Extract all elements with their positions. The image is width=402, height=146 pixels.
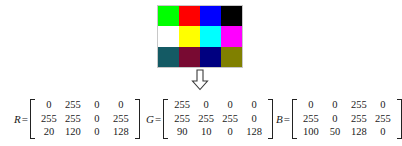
- matrix-group-r: R = 0255002552550255201200128: [14, 92, 140, 146]
- matrix-cell-b-0-2: 255: [347, 99, 371, 113]
- matrix-equals-b: =: [284, 114, 292, 125]
- matrix-cell-g-2-1: 10: [194, 126, 218, 140]
- matrix-cell-r-1-2: 0: [85, 112, 109, 126]
- matrix-table-r: 0255002552550255201200128: [37, 99, 133, 140]
- matrix-row: 255000: [170, 99, 266, 113]
- matrix-cell-g-1-1: 255: [194, 112, 218, 126]
- matrix-cell-b-1-2: 255: [347, 112, 371, 126]
- matrix-label-r: R: [14, 114, 22, 125]
- matrix-cell-r-0-2: 0: [85, 99, 109, 113]
- channel-matrices: R = 0255002552550255201200128 G = 255000…: [0, 92, 396, 146]
- matrix-cell-g-0-3: 0: [242, 99, 266, 113]
- bracket-left-g: [163, 99, 168, 140]
- pixel-r2c1: [179, 47, 200, 67]
- bracket-right-r: [135, 99, 140, 140]
- matrix-cell-b-0-1: 0: [323, 99, 347, 113]
- pixel-r1c1: [179, 26, 200, 46]
- matrix-row: 2550255255: [299, 112, 395, 126]
- matrix-row: 2552552550: [170, 112, 266, 126]
- down-arrow-icon: [190, 69, 210, 91]
- matrix-row: 002550: [299, 99, 395, 113]
- pixel-r1c0: [158, 26, 179, 46]
- bracket-left-b: [292, 99, 297, 140]
- matrix-cell-g-0-0: 255: [170, 99, 194, 113]
- matrix-cell-r-1-3: 255: [109, 112, 133, 126]
- matrix-row: 90100128: [170, 126, 266, 140]
- pixel-r0c0: [158, 6, 179, 26]
- matrix-cell-r-2-2: 0: [85, 126, 109, 140]
- matrix-cell-r-0-0: 0: [37, 99, 61, 113]
- matrix-cell-g-2-3: 128: [242, 126, 266, 140]
- matrix-cell-g-0-1: 0: [194, 99, 218, 113]
- matrix-cell-g-2-0: 90: [170, 126, 194, 140]
- matrix-cell-r-1-0: 255: [37, 112, 61, 126]
- matrix-body-r: 0255002552550255201200128: [30, 97, 140, 142]
- matrix-cell-g-2-2: 0: [218, 126, 242, 140]
- matrix-row: 100501280: [299, 126, 395, 140]
- matrix-cell-b-2-3: 0: [371, 126, 395, 140]
- matrix-row: 2552550255: [37, 112, 133, 126]
- matrix-cell-r-0-3: 0: [109, 99, 133, 113]
- matrix-cell-b-2-1: 50: [323, 126, 347, 140]
- matrix-cell-r-1-1: 255: [61, 112, 85, 126]
- pixel-r0c2: [200, 6, 221, 26]
- matrix-table-b: 0025502550255255100501280: [299, 99, 395, 140]
- matrix-cell-b-1-0: 255: [299, 112, 323, 126]
- matrix-cell-b-0-0: 0: [299, 99, 323, 113]
- matrix-cell-g-0-2: 0: [218, 99, 242, 113]
- matrix-cell-g-1-2: 255: [218, 112, 242, 126]
- matrix-equals-r: =: [22, 114, 30, 125]
- matrix-cell-b-1-3: 255: [371, 112, 395, 126]
- matrix-group-b: B = 0025502550255255100501280: [276, 92, 402, 146]
- rgb-color-image: [157, 5, 243, 68]
- pixel-r2c0: [158, 47, 179, 67]
- matrix-body-b: 0025502550255255100501280: [292, 97, 402, 142]
- pixel-r2c3: [221, 47, 242, 67]
- pixel-r0c1: [179, 6, 200, 26]
- matrix-label-g: G: [146, 114, 155, 125]
- matrix-cell-r-2-3: 128: [109, 126, 133, 140]
- pixel-r1c3: [221, 26, 242, 46]
- matrix-table-g: 255000255255255090100128: [170, 99, 266, 140]
- bracket-right-g: [268, 99, 273, 140]
- matrix-label-b: B: [276, 114, 284, 125]
- pixel-r1c2: [200, 26, 221, 46]
- pixel-grid: [158, 6, 242, 67]
- matrix-cell-b-0-3: 0: [371, 99, 395, 113]
- pixel-r2c2: [200, 47, 221, 67]
- matrix-row: 025500: [37, 99, 133, 113]
- matrix-cell-g-1-0: 255: [170, 112, 194, 126]
- pixel-r0c3: [221, 6, 242, 26]
- matrix-cell-b-2-2: 128: [347, 126, 371, 140]
- matrix-cell-r-2-1: 120: [61, 126, 85, 140]
- bracket-left-r: [30, 99, 35, 140]
- matrix-cell-r-2-0: 20: [37, 126, 61, 140]
- matrix-cell-b-2-0: 100: [299, 126, 323, 140]
- matrix-cell-b-1-1: 0: [323, 112, 347, 126]
- matrix-row: 201200128: [37, 126, 133, 140]
- matrix-body-g: 255000255255255090100128: [163, 97, 273, 142]
- bracket-right-b: [397, 99, 402, 140]
- matrix-group-g: G = 255000255255255090100128: [146, 92, 273, 146]
- matrix-cell-r-0-1: 255: [61, 99, 85, 113]
- matrix-equals-g: =: [155, 114, 163, 125]
- matrix-cell-g-1-3: 0: [242, 112, 266, 126]
